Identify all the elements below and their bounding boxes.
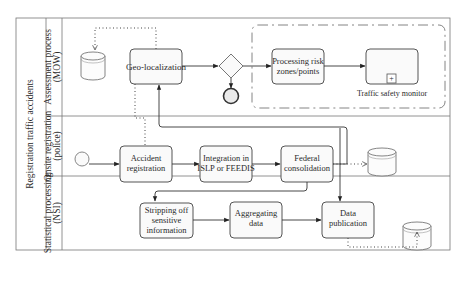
task-integration[interactable]: Integration in ISLP or FEEDIS	[197, 146, 255, 182]
subprocess-traffic-safety-monitor[interactable]: + Traffic safety monitor	[357, 49, 428, 98]
task-accident-registration[interactable]: Accident registration	[120, 146, 172, 182]
task-geo-localization[interactable]: Geo-localization	[126, 49, 186, 84]
svg-text:Aggregating: Aggregating	[235, 208, 278, 218]
svg-text:information: information	[146, 225, 187, 235]
svg-text:(NSI): (NSI)	[52, 202, 63, 224]
svg-text:Federal: Federal	[294, 153, 320, 163]
svg-text:consolidation: consolidation	[284, 163, 331, 173]
data-store-icon	[81, 52, 105, 80]
svg-text:Traffic safety monitor: Traffic safety monitor	[357, 89, 428, 98]
svg-text:Integration in: Integration in	[203, 153, 250, 163]
data-store-icon	[403, 222, 431, 250]
svg-text:sensitive: sensitive	[152, 215, 182, 225]
end-event-circle	[224, 89, 239, 104]
svg-text:Accident: Accident	[131, 153, 162, 163]
bpmn-diagram: Registration traffic accidents Assessmen…	[0, 0, 457, 295]
svg-text:Data: Data	[340, 208, 356, 218]
svg-text:publication: publication	[329, 218, 368, 228]
task-processing-risk[interactable]: Processing risk zones/points	[272, 49, 325, 84]
svg-text:data: data	[249, 218, 263, 228]
task-federal-consolidation[interactable]: Federal consolidation	[281, 146, 333, 182]
svg-text:Stripping off: Stripping off	[145, 205, 189, 215]
svg-text:zones/points: zones/points	[277, 66, 320, 76]
lane-label-statistical: Statistical processing (NSI)	[43, 173, 63, 254]
lane-label-onsite: Onsite registration (police)	[43, 111, 63, 182]
gateway-diamond	[219, 54, 243, 78]
svg-text:registration: registration	[127, 163, 166, 173]
svg-text:Geo-localization: Geo-localization	[126, 62, 186, 72]
start-event-icon	[75, 152, 89, 166]
data-store-icon	[368, 148, 396, 176]
task-data-publication[interactable]: Data publication	[322, 202, 374, 238]
svg-text:(police): (police)	[52, 131, 63, 161]
lane-label-assessment: Assessment process (MOW)	[43, 29, 63, 105]
pool-title: Registration traffic accidents	[25, 79, 35, 189]
task-stripping-sensitive-info[interactable]: Stripping off sensitive information	[140, 203, 193, 238]
svg-text:ISLP or FEEDIS: ISLP or FEEDIS	[197, 163, 255, 173]
svg-text:(MOW): (MOW)	[52, 52, 63, 83]
svg-text:Processing risk: Processing risk	[272, 56, 324, 66]
task-aggregating-data[interactable]: Aggregating data	[230, 202, 282, 238]
svg-text:+: +	[389, 74, 394, 83]
